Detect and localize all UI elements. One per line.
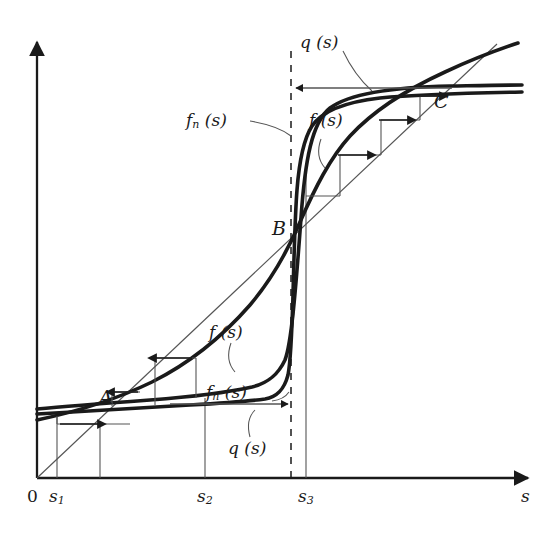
identity-diagonal-line [37, 44, 497, 478]
axis-tick-label-s1: s1 [49, 486, 65, 507]
x-axis-label: s [521, 486, 530, 506]
curve-label-q-low: q (s) [228, 438, 266, 458]
axis-tick-label-s3: s3 [298, 486, 314, 507]
curve-fn-of-s [37, 92, 522, 414]
curve-label-f-top: f (s) [309, 110, 343, 130]
curve-q-of-s [37, 85, 522, 409]
leader-q-top [343, 51, 372, 91]
curve-label-fn-low: fn (s) [206, 382, 247, 403]
diagram-canvas [0, 0, 551, 541]
cobweb-diagram-figure: q (s) fn (s) f (s) f (s) fn (s) q (s) A … [0, 0, 551, 541]
curve-label-q-top: q (s) [300, 32, 338, 52]
leader-f-low [229, 343, 235, 372]
leader-f-top [319, 139, 325, 168]
axis-tick-label-s2: s2 [197, 486, 213, 507]
fixed-point-label-A: A [99, 386, 113, 408]
axis-origin-label: 0 [27, 486, 38, 506]
leader-q-low [248, 410, 255, 437]
leader-fn-top [250, 121, 291, 136]
curve-label-fn-top: fn (s) [186, 110, 227, 131]
curve-label-f-low: f (s) [209, 322, 243, 342]
fixed-point-label-B: B [272, 217, 286, 239]
tick-drop-lines [57, 165, 306, 478]
fixed-point-label-C: C [434, 90, 449, 112]
